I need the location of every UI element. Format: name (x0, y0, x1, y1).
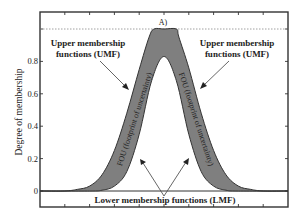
svg-text:Upper membership: Upper membership (51, 38, 126, 48)
y-tick-label: 0.8 (27, 56, 38, 66)
y-tick-label: 0.2 (27, 154, 38, 164)
svg-text:functions (UMF): functions (UMF) (205, 49, 269, 59)
y-axis-label: Degree of membership (14, 68, 24, 155)
svg-text:functions (UMF): functions (UMF) (56, 49, 120, 59)
svg-text:Lower membership functions (LM: Lower membership functions (LMF) (94, 195, 235, 205)
arrow-head-icon (183, 158, 189, 165)
svg-text:Upper membership: Upper membership (200, 38, 275, 48)
arrow-head-icon (140, 159, 146, 165)
y-tick-label: 0.6 (27, 89, 38, 99)
lower-membership-curve (40, 57, 288, 192)
y-tick-label: 0 (34, 186, 38, 196)
fou-chart: 00.20.40.60.8 A) Degree of membership Up… (0, 0, 302, 219)
annotation-umf-right: Upper membership functions (UMF) (200, 38, 275, 89)
chart-title: A) (159, 18, 168, 27)
y-tick-label: 0.4 (27, 121, 38, 131)
annotation-umf-left: Upper membership functions (UMF) (51, 38, 129, 90)
